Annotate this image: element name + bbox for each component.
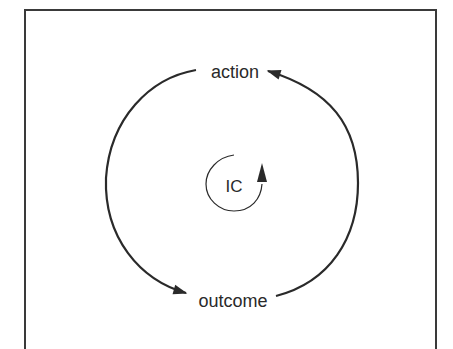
edge-outcome-to-action: [268, 71, 358, 296]
loop-arrowhead-icon: [257, 163, 267, 182]
loop-label: IC: [226, 177, 243, 196]
edge-action-to-outcome: [106, 70, 196, 293]
node-action: action: [211, 62, 259, 82]
node-outcome: outcome: [198, 291, 267, 311]
